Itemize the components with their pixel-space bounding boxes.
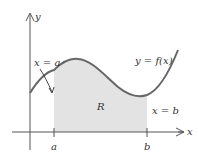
right-bound-label: x = b (152, 105, 179, 116)
left-bound-label: x = a (34, 57, 60, 68)
region-label: R (96, 101, 105, 112)
tick-b-label: b (144, 141, 150, 152)
x-axis-label: x (187, 126, 193, 137)
area-under-curve-diagram: x y y = f(x) a b R x = a x = b (0, 0, 199, 161)
y-axis-label: y (34, 11, 41, 22)
curve-label: y = f(x) (134, 55, 173, 66)
tick-a-label: a (51, 141, 57, 152)
